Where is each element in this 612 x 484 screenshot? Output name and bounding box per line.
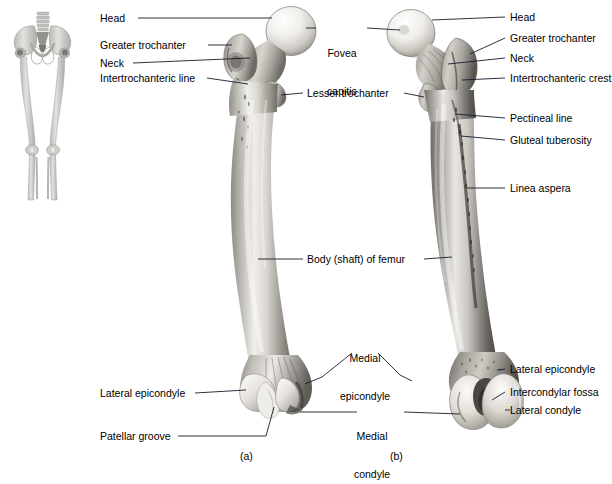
label-body-shaft-of-femur: Body (shaft) of femur	[307, 253, 405, 266]
label-lateral-condyle-b: Lateral condyle	[510, 404, 581, 417]
label-pectineal-line: Pectineal line	[510, 112, 572, 125]
label-head-a: Head	[100, 12, 125, 25]
label-greater-trochanter-a: Greater trochanter	[100, 39, 186, 52]
label-medial-epicondyle-line1: Medial	[330, 352, 400, 365]
label-intercondylar-fossa: Intercondylar fossa	[510, 386, 599, 399]
label-neck-b: Neck	[510, 52, 534, 65]
panel-caption-b: (b)	[390, 450, 403, 462]
label-gluteal-tuberosity: Gluteal tuberosity	[510, 134, 592, 147]
femur-posterior	[387, 10, 523, 430]
label-lateral-epicondyle-b: Lateral epicondyle	[510, 363, 595, 376]
label-head-b: Head	[510, 11, 535, 24]
label-linea-aspera: Linea aspera	[510, 182, 571, 195]
label-intertrochanteric-line: Intertrochanteric line	[100, 72, 195, 85]
label-medial-epicondyle: Medial epicondyle	[330, 327, 400, 415]
femur-anterior	[224, 7, 316, 419]
label-neck-a: Neck	[100, 57, 124, 70]
leader-greater-trochanter-b	[470, 38, 505, 54]
label-medial-condyle-line2: condyle	[341, 468, 403, 481]
label-medial-condyle-line1: Medial	[341, 430, 403, 443]
label-lesser-trochanter: Lesser trochanter	[307, 87, 389, 100]
panel-caption-a: (a)	[240, 450, 253, 462]
leader-lateral-epicondyle-a	[195, 390, 246, 393]
label-fovea-capitis-line1: Fovea	[316, 47, 368, 60]
label-medial-epicondyle-line2: epicondyle	[330, 390, 400, 403]
label-greater-trochanter-b: Greater trochanter	[510, 32, 596, 45]
label-lateral-epicondyle-a: Lateral epicondyle	[100, 387, 185, 400]
label-medial-condyle: Medial condyle	[341, 405, 403, 484]
leader-head-b	[432, 17, 505, 20]
label-intertrochanteric-crest: Intertrochanteric crest	[510, 72, 612, 85]
skeleton-inset	[14, 12, 70, 200]
label-patellar-groove: Patellar groove	[100, 430, 171, 443]
